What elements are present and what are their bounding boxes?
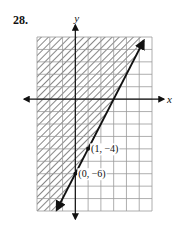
point-label: (0, −6): [78, 168, 105, 180]
point-label: (1, −4): [91, 143, 118, 155]
data-point: [86, 147, 90, 151]
y-axis-label: y: [73, 12, 79, 24]
data-point: [73, 172, 77, 176]
graph: xy (1, −4)(0, −6): [0, 0, 181, 228]
x-axis-label: x: [166, 93, 172, 105]
